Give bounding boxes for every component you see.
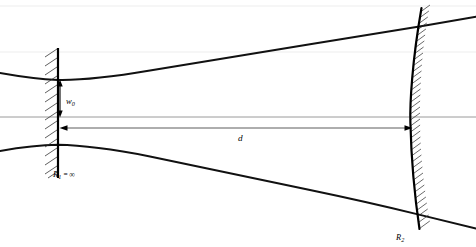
optical-resonator-figure: w0 d R1=∞ R2 [0, 0, 476, 247]
left-mirror-value: ∞ [69, 170, 75, 179]
beam-envelope-upper [0, 17, 476, 80]
right-mirror-label: R2 [395, 233, 404, 243]
left-mirror-hatching [45, 49, 57, 178]
left-mirror-relation: = [63, 170, 67, 179]
diagram-canvas: w0 d R1=∞ R2 [0, 0, 476, 247]
distance-arrow-head-left [60, 125, 68, 131]
right-mirror-hatching [410, 5, 430, 228]
beam-waist-label: w0 [66, 96, 76, 107]
beam-envelope-lower [0, 145, 476, 229]
left-mirror-subscript: 1 [58, 173, 61, 180]
left-flat-mirror [45, 48, 58, 178]
left-mirror-label: R1=∞ [52, 170, 75, 180]
beam-waist-subscript: 0 [72, 100, 76, 107]
separation-arrow [60, 125, 413, 131]
separation-label: d [238, 133, 243, 143]
right-mirror-subscript: 2 [401, 236, 404, 243]
